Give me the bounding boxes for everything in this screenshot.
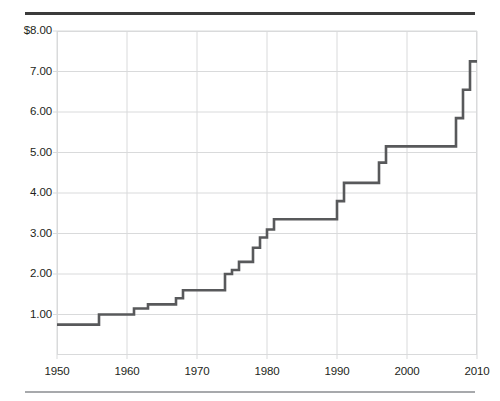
y-axis-tick-label: 2.00 <box>0 268 52 280</box>
y-axis-tick-label: 7.00 <box>0 66 52 78</box>
x-axis-tick-label: 1980 <box>237 366 297 378</box>
chart-figure: 1.002.003.004.005.006.007.00$8.00 195019… <box>0 0 500 401</box>
x-axis-tick-label: 1990 <box>307 366 367 378</box>
x-axis-tick-label: 1950 <box>27 366 87 378</box>
y-axis-tick-label: $8.00 <box>0 25 52 37</box>
x-axis-tick-label: 2000 <box>377 366 437 378</box>
gridlines <box>57 31 477 355</box>
y-axis-tick-label: 4.00 <box>0 187 52 199</box>
y-axis-tick-label: 1.00 <box>0 309 52 321</box>
x-axis-tick-label: 1960 <box>97 366 157 378</box>
y-axis-tick-label: 3.00 <box>0 228 52 240</box>
y-axis-tick-label: 5.00 <box>0 147 52 159</box>
x-axis-tick-label: 1970 <box>167 366 227 378</box>
tick-marks <box>53 31 477 359</box>
chart-canvas <box>0 0 500 401</box>
y-axis-tick-label: 6.00 <box>0 106 52 118</box>
x-axis-tick-label: 2010 <box>447 366 500 378</box>
